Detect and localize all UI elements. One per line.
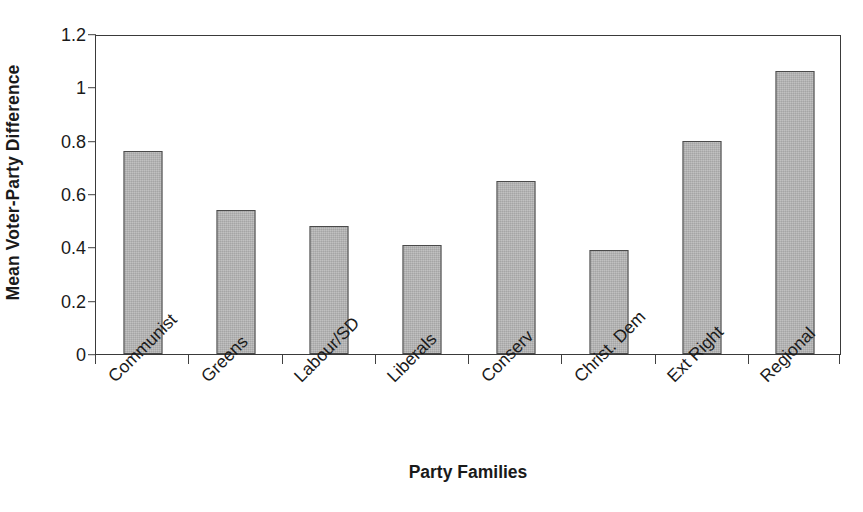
y-axis-tick-label: 0.2 (61, 291, 86, 312)
y-axis-tick-label: 1 (76, 78, 86, 99)
y-axis-tick-label: 0.4 (61, 238, 86, 259)
x-axis-tick-mark (561, 355, 562, 364)
y-axis-title-text: Mean Voter-Party Difference (4, 65, 25, 301)
y-axis-tick-labels: 00.20.40.60.811.2 (30, 35, 86, 355)
bar (496, 181, 535, 354)
y-axis-title: Mean Voter-Party Difference (0, 0, 28, 365)
bar (683, 141, 722, 354)
x-axis-tick-mark (748, 355, 749, 364)
bar-series (96, 36, 840, 354)
bar-slot (469, 36, 562, 354)
x-axis-tick-mark (375, 355, 376, 364)
plot-area (95, 35, 841, 355)
x-axis-tick-labels: CommunistGreensLabour/SDLiberalsConservC… (95, 364, 841, 459)
y-axis-tick-label: 0.8 (61, 131, 86, 152)
x-axis-tick-mark (282, 355, 283, 364)
x-axis-tick-mark (655, 355, 656, 364)
bar-slot (283, 36, 376, 354)
y-axis-tick-label: 0.6 (61, 185, 86, 206)
bar (776, 71, 815, 354)
bar-slot (562, 36, 655, 354)
bar-slot (96, 36, 189, 354)
bar-chart-figure: Mean Voter-Party Difference 00.20.40.60.… (0, 0, 863, 512)
bar-slot (189, 36, 282, 354)
bar-slot (656, 36, 749, 354)
y-axis-tick-label: 1.2 (61, 25, 86, 46)
x-axis-title: Party Families (95, 462, 841, 483)
y-axis-tick-label: 0 (76, 345, 86, 366)
bar-slot (376, 36, 469, 354)
x-axis-tick-mark (188, 355, 189, 364)
x-axis-tick-mark (839, 355, 840, 364)
bar-slot (749, 36, 842, 354)
x-axis-tick-mark (468, 355, 469, 364)
x-axis-tick-mark (95, 355, 96, 364)
